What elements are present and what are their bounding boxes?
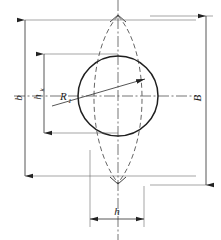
technical-diagram: b h k B h R 1 [0,0,221,240]
dimension-label-b: b [12,95,24,101]
radius-label-subscript: 1 [68,97,72,105]
dimension-b: b [12,20,25,176]
lens-right-arc [118,16,142,183]
lens-left-arc [94,16,118,183]
centerlines [14,0,196,240]
dimension-label-hk: h [31,94,43,100]
dimension-h: h [90,205,144,219]
radius-label-group: R 1 [59,90,72,105]
dimension-label-B: B [191,94,203,101]
dimension-B: B [191,16,206,185]
dimension-label-h: h [114,205,120,217]
extension-lines [25,16,213,227]
radius-label-R: R [59,90,67,102]
dimension-hk: h k [31,54,46,133]
dimension-label-hk-subscript: k [38,88,46,92]
diagram-canvas: b h k B h R 1 [0,0,221,240]
